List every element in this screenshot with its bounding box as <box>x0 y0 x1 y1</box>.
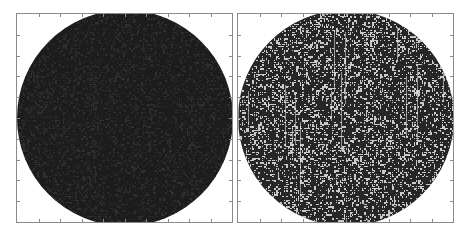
axis-tick <box>238 139 241 140</box>
axis-tick <box>303 14 304 17</box>
axis-tick <box>281 219 282 222</box>
axis-tick <box>103 219 104 222</box>
axis-tick <box>17 97 20 98</box>
left-speckle-panel <box>16 13 233 223</box>
axis-tick <box>229 76 232 77</box>
axis-tick <box>229 160 232 161</box>
axis-tick <box>229 201 232 202</box>
axis-tick <box>229 180 232 181</box>
axis-tick <box>238 56 241 57</box>
axis-tick <box>39 14 40 17</box>
axis-tick <box>17 76 20 77</box>
axis-tick <box>60 219 61 222</box>
axis-tick <box>260 219 261 222</box>
axis-tick <box>17 56 20 57</box>
axis-tick <box>17 201 20 202</box>
axis-tick <box>238 180 241 181</box>
axis-tick <box>410 219 411 222</box>
axis-tick <box>60 14 61 17</box>
axis-tick <box>324 14 325 17</box>
axis-tick <box>450 97 453 98</box>
dark-disk-image <box>17 14 232 222</box>
axis-tick <box>229 35 232 36</box>
axis-tick <box>146 14 147 17</box>
axis-tick <box>125 14 126 17</box>
right-speckle-panel <box>237 13 454 223</box>
axis-tick <box>238 118 241 119</box>
axis-tick <box>450 180 453 181</box>
axis-tick <box>367 219 368 222</box>
axis-tick <box>238 160 241 161</box>
axis-tick <box>281 14 282 17</box>
axis-tick <box>17 139 20 140</box>
axis-tick <box>303 219 304 222</box>
axis-tick <box>189 14 190 17</box>
axis-tick <box>238 76 241 77</box>
axis-tick <box>238 201 241 202</box>
axis-tick <box>450 35 453 36</box>
axis-tick <box>324 219 325 222</box>
axis-tick <box>168 14 169 17</box>
axis-tick <box>238 97 241 98</box>
axis-tick <box>146 219 147 222</box>
axis-tick <box>189 219 190 222</box>
axis-tick <box>17 118 20 119</box>
axis-tick <box>17 160 20 161</box>
axis-tick <box>450 139 453 140</box>
axis-tick <box>450 118 453 119</box>
axis-tick <box>229 118 232 119</box>
axis-tick <box>229 139 232 140</box>
axis-tick <box>17 35 20 36</box>
axis-tick <box>39 219 40 222</box>
axis-tick <box>103 14 104 17</box>
axis-tick <box>211 14 212 17</box>
axis-tick <box>450 76 453 77</box>
axis-tick <box>260 14 261 17</box>
axis-tick <box>432 14 433 17</box>
axis-tick <box>346 219 347 222</box>
axis-tick <box>450 201 453 202</box>
axis-tick <box>125 219 126 222</box>
axis-tick <box>450 160 453 161</box>
axis-tick <box>432 219 433 222</box>
axis-tick <box>229 56 232 57</box>
axis-tick <box>367 14 368 17</box>
axis-tick <box>211 219 212 222</box>
axis-tick <box>17 180 20 181</box>
axis-tick <box>410 14 411 17</box>
axis-tick <box>450 56 453 57</box>
axis-tick <box>389 219 390 222</box>
axis-tick <box>168 219 169 222</box>
axis-tick <box>82 14 83 17</box>
axis-tick <box>82 219 83 222</box>
axis-tick <box>389 14 390 17</box>
speckle-disk-image <box>238 14 453 222</box>
axis-tick <box>346 14 347 17</box>
axis-tick <box>229 97 232 98</box>
axis-tick <box>238 35 241 36</box>
